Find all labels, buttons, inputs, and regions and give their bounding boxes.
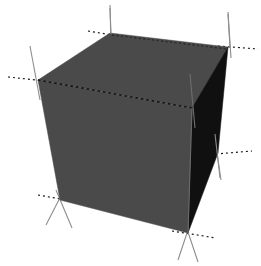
figure-canvas: Shaded 3D cube with axis tick marks at i… bbox=[0, 0, 261, 266]
cube-plot-svg: Shaded 3D cube with axis tick marks at i… bbox=[0, 0, 261, 266]
